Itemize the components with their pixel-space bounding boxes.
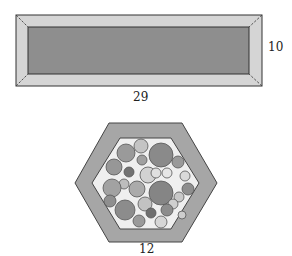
circle-3 [137, 155, 147, 165]
circle-6 [124, 167, 134, 177]
circle-23 [178, 211, 186, 219]
circle-22 [161, 204, 173, 216]
circle-15 [182, 183, 194, 195]
circle-8 [151, 168, 161, 178]
circle-13 [129, 181, 145, 197]
circle-10 [180, 171, 190, 181]
height-label: 10 [268, 40, 283, 54]
circle-20 [115, 200, 135, 220]
circle-0 [134, 139, 148, 153]
circle-17 [104, 195, 116, 207]
rectangular-frame: 10 29 [16, 15, 283, 104]
diagram-canvas: 10 29 12 [0, 0, 292, 256]
hexagonal-frame: 12 [75, 123, 217, 256]
circle-25 [155, 216, 167, 228]
width-label: 29 [133, 90, 148, 104]
circle-4 [172, 156, 184, 168]
circle-21 [146, 208, 156, 218]
circle-1 [117, 144, 135, 162]
circle-24 [133, 215, 145, 227]
circle-9 [162, 168, 172, 178]
side-label: 12 [139, 242, 154, 256]
circle-2 [149, 143, 173, 167]
circle-5 [106, 159, 122, 175]
rect-inner-panel [28, 27, 249, 74]
circle-12 [103, 179, 121, 197]
